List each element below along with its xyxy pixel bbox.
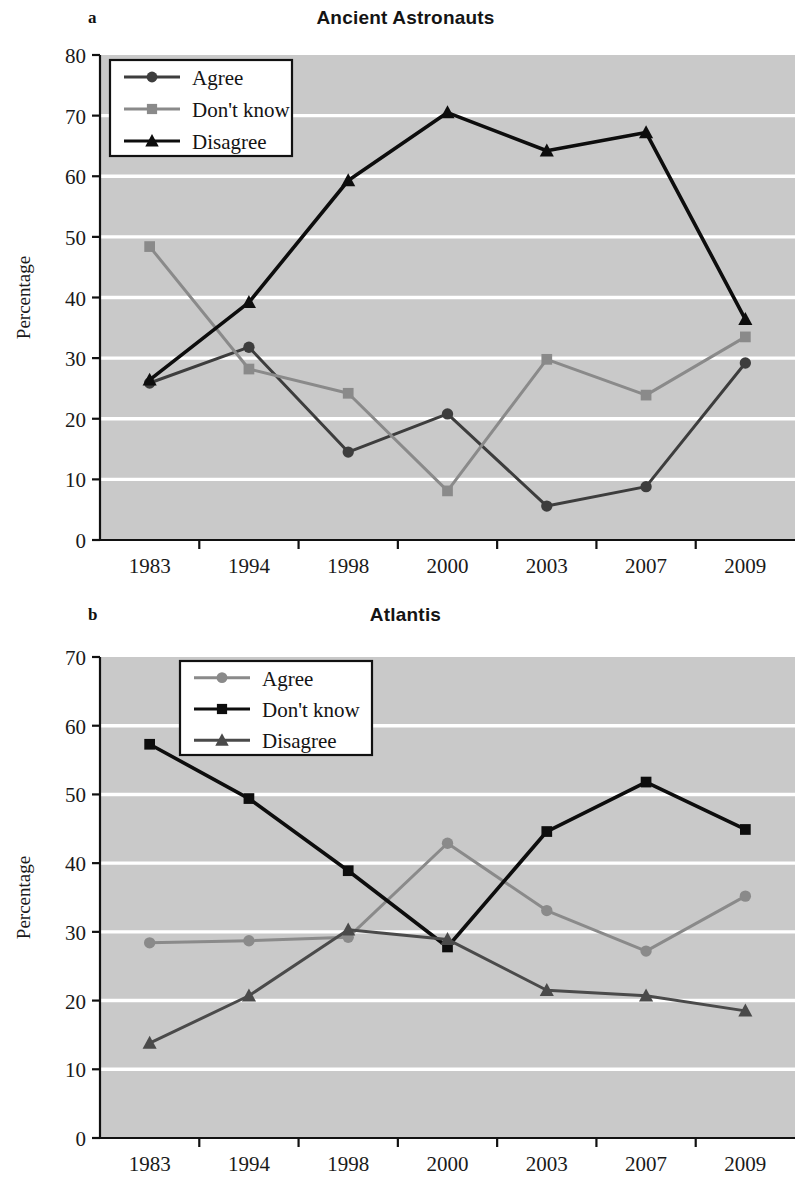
data-point-marker bbox=[442, 838, 453, 849]
data-point-marker bbox=[442, 408, 453, 419]
x-axis-ticks: 1983199419982000200320072009 bbox=[129, 540, 767, 578]
data-point-marker bbox=[147, 104, 157, 114]
figure-container: a Ancient Astronauts 0102030405060708019… bbox=[0, 0, 811, 1187]
data-point-marker bbox=[640, 481, 651, 492]
legend-label: Agree bbox=[192, 66, 243, 90]
y-axis-label: Percentage bbox=[13, 256, 34, 339]
x-tick-label: 2007 bbox=[625, 554, 667, 578]
data-point-marker bbox=[541, 354, 552, 365]
legend-label: Disagree bbox=[192, 130, 267, 154]
y-tick-label: 70 bbox=[65, 105, 86, 129]
data-point-marker bbox=[144, 739, 155, 750]
data-point-marker bbox=[144, 241, 155, 252]
y-axis-label: Percentage bbox=[13, 856, 34, 939]
data-point-marker bbox=[343, 446, 354, 457]
data-point-marker bbox=[740, 357, 751, 368]
y-tick-label: 20 bbox=[65, 990, 86, 1014]
data-point-marker bbox=[244, 364, 255, 375]
chart-panel-b: b Atlantis 01020304050607019831994199820… bbox=[0, 596, 811, 1187]
legend: AgreeDon't knowDisagree bbox=[180, 661, 372, 755]
legend-label: Don't know bbox=[192, 98, 291, 122]
x-tick-label: 2007 bbox=[625, 1152, 667, 1176]
y-tick-label: 20 bbox=[65, 408, 86, 432]
y-tick-label: 50 bbox=[65, 783, 86, 807]
x-tick-label: 1994 bbox=[228, 1152, 271, 1176]
data-point-marker bbox=[541, 500, 552, 511]
data-point-marker bbox=[243, 935, 254, 946]
data-point-marker bbox=[641, 390, 652, 401]
data-point-marker bbox=[343, 388, 354, 399]
x-tick-label: 2000 bbox=[427, 554, 469, 578]
data-point-marker bbox=[244, 793, 255, 804]
y-tick-label: 40 bbox=[65, 852, 86, 876]
data-point-marker bbox=[740, 824, 751, 835]
data-point-marker bbox=[243, 342, 254, 353]
y-tick-label: 80 bbox=[65, 44, 86, 68]
data-point-marker bbox=[740, 890, 751, 901]
y-tick-label: 30 bbox=[65, 921, 86, 945]
x-tick-label: 2003 bbox=[526, 554, 568, 578]
y-tick-label: 60 bbox=[65, 715, 86, 739]
line-chart-b: 0102030405060701983199419982000200320072… bbox=[0, 596, 811, 1187]
y-tick-label: 60 bbox=[65, 165, 86, 189]
data-point-marker bbox=[147, 72, 158, 83]
data-point-marker bbox=[541, 826, 552, 837]
x-tick-label: 1983 bbox=[129, 554, 171, 578]
y-tick-label: 40 bbox=[65, 287, 86, 311]
legend-label: Agree bbox=[262, 667, 313, 691]
data-point-marker bbox=[442, 486, 453, 497]
x-tick-label: 2003 bbox=[526, 1152, 568, 1176]
x-tick-label: 1998 bbox=[327, 554, 369, 578]
y-tick-label: 50 bbox=[65, 226, 86, 250]
x-tick-label: 1998 bbox=[327, 1152, 369, 1176]
y-tick-label: 0 bbox=[76, 1127, 87, 1151]
line-chart-a: 0102030405060708019831994199820002003200… bbox=[0, 0, 811, 596]
data-point-marker bbox=[541, 905, 552, 916]
legend: AgreeDon't knowDisagree bbox=[110, 60, 292, 156]
x-axis-ticks: 1983199419982000200320072009 bbox=[129, 1138, 767, 1176]
y-tick-label: 10 bbox=[65, 1058, 86, 1082]
data-point-marker bbox=[640, 945, 651, 956]
y-axis-ticks: 010203040506070 bbox=[65, 646, 100, 1151]
x-tick-label: 1994 bbox=[228, 554, 271, 578]
x-tick-label: 2009 bbox=[724, 554, 766, 578]
data-point-marker bbox=[217, 704, 227, 714]
data-point-marker bbox=[641, 777, 652, 788]
y-tick-label: 10 bbox=[65, 468, 86, 492]
x-tick-label: 2000 bbox=[427, 1152, 469, 1176]
legend-label: Disagree bbox=[262, 729, 337, 753]
x-tick-label: 1983 bbox=[129, 1152, 171, 1176]
data-point-marker bbox=[343, 865, 354, 876]
data-point-marker bbox=[740, 332, 751, 343]
data-point-marker bbox=[217, 672, 228, 683]
data-point-marker bbox=[144, 937, 155, 948]
chart-panel-a: a Ancient Astronauts 0102030405060708019… bbox=[0, 0, 811, 596]
x-tick-label: 2009 bbox=[724, 1152, 766, 1176]
y-tick-label: 30 bbox=[65, 347, 86, 371]
y-tick-label: 0 bbox=[76, 529, 87, 553]
legend-label: Don't know bbox=[262, 698, 361, 722]
y-tick-label: 70 bbox=[65, 646, 86, 670]
y-axis-ticks: 01020304050607080 bbox=[65, 44, 100, 553]
